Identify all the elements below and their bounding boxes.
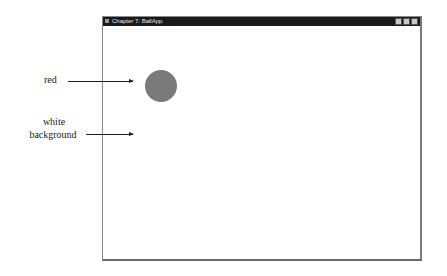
window-controls	[395, 18, 418, 25]
ball	[145, 70, 177, 102]
annotation-arrow-icon	[68, 81, 133, 82]
annotation-arrow-icon	[86, 134, 133, 135]
maximize-button[interactable]	[403, 18, 410, 25]
close-button[interactable]	[411, 18, 418, 25]
app-icon[interactable]	[105, 19, 109, 23]
drawing-canvas[interactable]	[103, 26, 420, 259]
ballapp-window: Chapter 7: BallApp	[102, 16, 422, 261]
annotation-red-label: red	[44, 74, 57, 86]
annotation-white-label: white	[24, 116, 84, 128]
annotation-background-label: background	[20, 129, 86, 141]
window-title: Chapter 7: BallApp	[112, 17, 162, 26]
minimize-button[interactable]	[395, 18, 402, 25]
title-bar[interactable]: Chapter 7: BallApp	[103, 17, 420, 26]
